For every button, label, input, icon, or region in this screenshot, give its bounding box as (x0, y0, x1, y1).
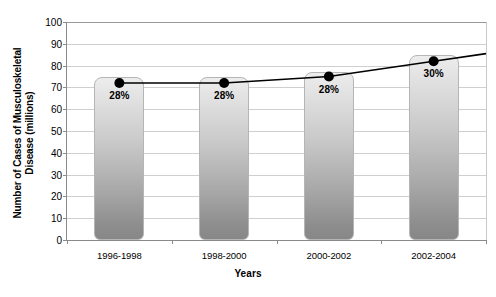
y-tick-label: 100 (45, 17, 62, 28)
x-tick-mark (67, 240, 68, 244)
percent-label: 30% (424, 68, 444, 79)
y-tick-label: 60 (51, 104, 62, 115)
x-tick-label: 2000-2002 (307, 250, 352, 261)
gridline (67, 44, 486, 45)
y-tick-label: 80 (51, 60, 62, 71)
y-tick-mark (63, 22, 67, 23)
bar (409, 55, 459, 240)
y-axis-title-line-2: Disease (millions) (24, 91, 37, 174)
y-tick-label: 30 (51, 169, 62, 180)
percent-label: 28% (214, 90, 234, 101)
percent-label: 28% (109, 90, 129, 101)
trend-line (119, 61, 433, 83)
y-tick-mark (63, 131, 67, 132)
y-tick-mark (63, 87, 67, 88)
x-axis-title: Years (0, 268, 496, 279)
y-tick-label: 10 (51, 213, 62, 224)
plot-right-edge (486, 22, 487, 240)
y-axis-title: Number of Cases of Musculoskeletal Disea… (9, 13, 39, 253)
y-tick-mark (63, 175, 67, 176)
y-tick-label: 40 (51, 147, 62, 158)
plot-area: 0102030405060708090100 28%28%28%30% 1996… (66, 22, 486, 241)
x-tick-mark (172, 240, 173, 244)
y-tick-label: 70 (51, 82, 62, 93)
y-tick-label: 50 (51, 126, 62, 137)
y-tick-mark (63, 66, 67, 67)
y-tick-mark (63, 153, 67, 154)
y-axis-title-line-1: Number of Cases of Musculoskeletal (12, 47, 25, 218)
y-tick-mark (63, 218, 67, 219)
x-tick-mark (381, 240, 382, 244)
x-tick-label: 1998-2000 (202, 250, 247, 261)
x-tick-label: 2002-2004 (411, 250, 456, 261)
chart-container: Number of Cases of Musculoskeletal Disea… (0, 0, 496, 297)
y-tick-label: 20 (51, 191, 62, 202)
x-tick-mark (277, 240, 278, 244)
percent-label: 28% (319, 84, 339, 95)
y-tick-label: 0 (56, 235, 62, 246)
y-tick-mark (63, 109, 67, 110)
y-tick-mark (63, 44, 67, 45)
y-tick-label: 90 (51, 38, 62, 49)
x-tick-label: 1996-1998 (97, 250, 142, 261)
y-tick-mark (63, 196, 67, 197)
gridline (67, 22, 486, 23)
bar (304, 72, 354, 240)
x-tick-mark (486, 240, 487, 244)
